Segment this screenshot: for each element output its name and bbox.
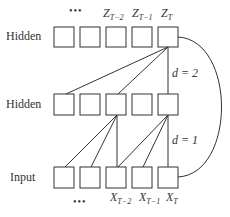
- row-label-top-hidden: Hidden: [6, 29, 41, 44]
- bottom-ellipsis: •••: [73, 196, 87, 207]
- top-hidden-box-5: [158, 27, 178, 47]
- z-sub: T−1: [139, 13, 153, 22]
- label-z-t-minus-2: ZT−2: [103, 6, 124, 22]
- z-sub: T: [168, 13, 172, 22]
- input-box-2: [80, 167, 100, 188]
- z-base: Z: [132, 6, 139, 20]
- top-hidden-box-4: [132, 27, 152, 47]
- dilation-label-lower: d = 1: [172, 133, 198, 148]
- label-z-t: ZT: [161, 6, 172, 22]
- mid-hidden-box-2: [80, 94, 100, 115]
- mid-hidden-box-4: [132, 94, 152, 115]
- input-box-3: [106, 167, 126, 188]
- row-label-input: Input: [10, 170, 35, 185]
- top-hidden-box-2: [80, 27, 100, 47]
- input-box-5: [158, 167, 178, 188]
- input-box-1: [54, 167, 74, 188]
- z-base: Z: [103, 6, 110, 20]
- edge-top5-mid3: [118, 47, 168, 94]
- z-sub: T−2: [110, 13, 124, 22]
- edge-mid3-in2: [91, 115, 117, 167]
- edge-mid3-in1: [65, 115, 117, 167]
- x-sub: T: [173, 197, 177, 206]
- edge-top5-mid1: [66, 47, 168, 94]
- dilation-label-upper: d = 2: [172, 66, 198, 81]
- edge-mid5-in4: [143, 115, 168, 167]
- label-x-t-minus-2: XT−2: [110, 190, 131, 206]
- top-hidden-box-1: [54, 27, 74, 47]
- x-sub: T−1: [146, 197, 160, 206]
- edge-mid5-in3: [118, 115, 168, 167]
- mid-hidden-box-3: [106, 94, 126, 115]
- label-x-t-minus-1: XT−1: [139, 190, 160, 206]
- x-sub: T−2: [117, 197, 131, 206]
- top-ellipsis: •••: [69, 5, 83, 16]
- skip-connection-curve: [178, 37, 222, 177]
- top-hidden-box-3: [106, 27, 126, 47]
- input-box-4: [132, 167, 152, 188]
- mid-hidden-box-5: [158, 94, 178, 115]
- mid-hidden-box-1: [54, 94, 74, 115]
- row-label-mid-hidden: Hidden: [6, 97, 41, 112]
- label-x-t: XT: [166, 190, 178, 206]
- z-base: Z: [161, 6, 168, 20]
- label-z-t-minus-1: ZT−1: [132, 6, 153, 22]
